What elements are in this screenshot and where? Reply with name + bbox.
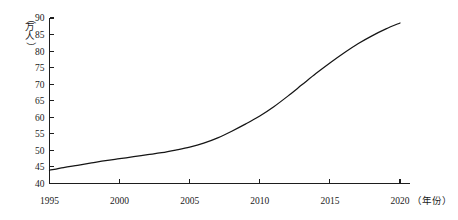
y-tick-label: 85	[35, 30, 45, 40]
x-tick-label: 2020	[391, 196, 410, 206]
x-tick-label: 2015	[320, 196, 339, 206]
y-tick-label: 45	[35, 162, 45, 172]
y-tick-label: 90	[35, 13, 45, 23]
y-tick-label: 50	[35, 146, 45, 156]
x-axis-tick-marks	[120, 179, 400, 184]
y-tick-label: 60	[35, 113, 45, 123]
data-series-line	[50, 23, 401, 170]
y-tick-label: 40	[35, 179, 45, 189]
x-tick-label: 2010	[250, 196, 269, 206]
x-axis-tick-labels: 199520002005201020152020	[40, 196, 410, 206]
y-tick-label: 65	[35, 96, 45, 106]
line-chart: （ 万 人 ） 4045505560657075808590 199520002…	[0, 0, 458, 220]
x-tick-label: 2005	[180, 196, 199, 206]
x-tick-label: 1995	[40, 196, 59, 206]
chart-canvas: 4045505560657075808590 19952000200520102…	[0, 0, 458, 220]
y-tick-label: 55	[35, 129, 45, 139]
x-tick-label: 2000	[110, 196, 129, 206]
y-tick-label: 75	[35, 63, 45, 73]
x-axis-caption: （年份）	[412, 195, 452, 206]
y-axis-tick-marks	[50, 18, 55, 184]
y-tick-label: 80	[35, 47, 45, 57]
y-axis-tick-labels: 4045505560657075808590	[35, 13, 45, 189]
y-tick-label: 70	[35, 80, 45, 90]
